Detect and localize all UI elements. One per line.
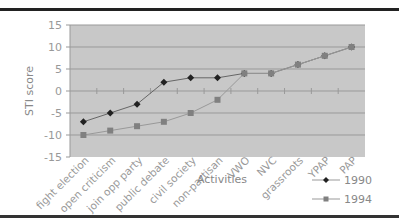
- legend-label: 1994: [344, 193, 372, 206]
- data-point-square: [134, 123, 140, 129]
- data-point-square: [215, 97, 221, 103]
- line-chart: 151050-5-10-15fight electionopen critici…: [0, 0, 399, 220]
- data-point-square: [349, 44, 355, 50]
- data-point-square: [268, 70, 274, 76]
- data-point-square: [188, 110, 194, 116]
- x-axis-title: Activities: [197, 173, 247, 186]
- legend-label: 1990: [344, 174, 372, 187]
- y-tick-label: -10: [44, 129, 62, 142]
- y-tick-label: 0: [55, 85, 62, 98]
- data-point-square: [107, 128, 113, 134]
- y-tick-label: -15: [44, 151, 62, 164]
- data-point-square: [80, 132, 86, 138]
- y-tick-label: 15: [48, 19, 62, 32]
- data-point-square: [161, 119, 167, 125]
- y-axis-title: STI score: [23, 66, 36, 116]
- y-tick-label: -5: [51, 107, 62, 120]
- x-category-label: PAP: [337, 154, 359, 176]
- y-tick-label: 5: [55, 63, 62, 76]
- y-tick-label: 10: [48, 41, 62, 54]
- legend-diamond-icon: [323, 177, 329, 183]
- data-point-square: [241, 70, 247, 76]
- x-category-label: YPAP: [305, 154, 332, 181]
- legend-square-icon: [324, 197, 329, 202]
- data-point-square: [295, 62, 301, 68]
- data-point-square: [322, 53, 328, 59]
